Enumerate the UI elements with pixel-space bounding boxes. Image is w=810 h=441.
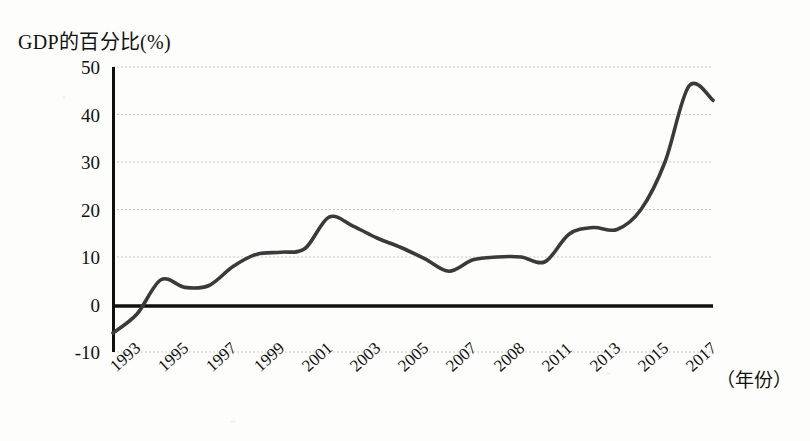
chart-plot-area	[0, 0, 810, 441]
x-axis-unit-label: （年份）	[716, 371, 792, 390]
scan-speck	[230, 420, 236, 423]
y-tick-label: 30	[38, 153, 100, 172]
y-tick-label: 50	[38, 58, 100, 77]
scan-speck	[392, 210, 395, 213]
y-tick-label: 40	[38, 106, 100, 125]
data-line-series-1	[113, 83, 713, 333]
scan-speck	[606, 372, 611, 375]
scan-speck	[62, 96, 66, 99]
y-tick-label: 0	[38, 296, 100, 315]
gridlines	[113, 67, 713, 352]
y-tick-label: 20	[38, 201, 100, 220]
y-tick-label: -10	[38, 343, 100, 362]
chart-figure: GDP的百分比(%) 50403020100-10 19931995199719…	[0, 0, 810, 441]
y-tick-label: 10	[38, 248, 100, 267]
